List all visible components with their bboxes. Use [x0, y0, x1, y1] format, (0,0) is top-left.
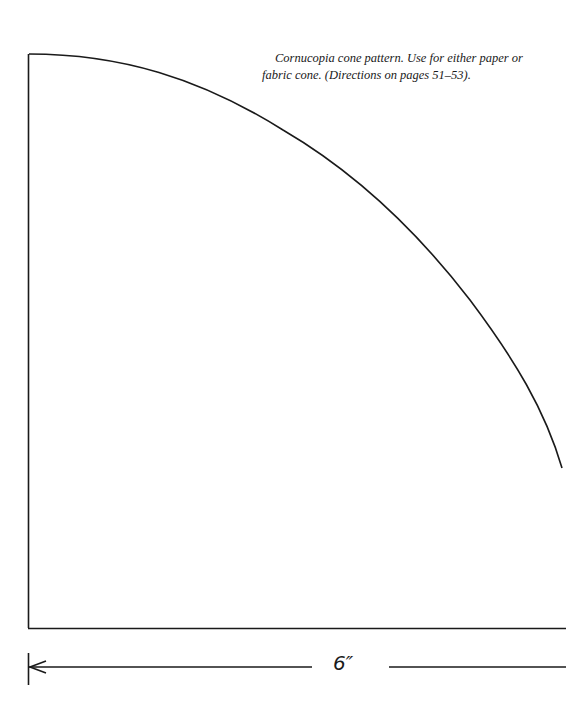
pattern-caption: Cornucopia cone pattern. Use for either …: [262, 50, 562, 84]
pattern-arc: [29, 54, 562, 468]
cone-pattern-drawing: [0, 0, 566, 714]
dimension-label: 6″: [333, 651, 353, 675]
caption-line-1: Cornucopia cone pattern. Use for either …: [262, 50, 562, 67]
caption-line-2: fabric cone. (Directions on pages 51–53)…: [262, 67, 562, 84]
